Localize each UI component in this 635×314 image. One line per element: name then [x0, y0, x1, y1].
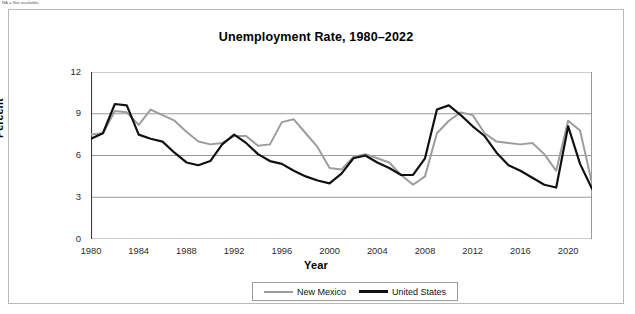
y-axis-tick-label-6: 6 — [55, 149, 81, 160]
x-axis-tick-label-1984: 1984 — [119, 246, 159, 256]
legend-item-united-states[interactable]: United States — [359, 287, 446, 297]
x-axis-tick-label-2012: 2012 — [453, 246, 493, 256]
y-axis-title: Percent — [0, 98, 5, 138]
plot-area: 0369121980198419881992199620002004200820… — [91, 72, 592, 239]
x-axis-tick-label-2020: 2020 — [548, 246, 588, 256]
legend-swatch-icon — [359, 290, 388, 293]
x-axis-tick-label-1996: 1996 — [262, 246, 302, 256]
x-axis-tick-label-1992: 1992 — [214, 246, 254, 256]
y-axis-tick-label-9: 9 — [55, 107, 81, 118]
legend-item-new-mexico[interactable]: New Mexico — [264, 287, 346, 297]
footnote-na: NA = Not available. — [2, 0, 40, 5]
chart-title: Unemployment Rate, 1980–2022 — [9, 30, 623, 44]
x-axis-tick-label-2016: 2016 — [500, 246, 540, 256]
x-axis-tick-label-2000: 2000 — [310, 246, 350, 256]
chart-frame: Unemployment Rate, 1980–2022 Percent 036… — [8, 9, 624, 304]
legend-label: New Mexico — [297, 287, 346, 297]
legend-swatch-icon — [264, 291, 293, 293]
x-axis-title: Year — [9, 259, 623, 271]
y-axis-tick-label-12: 12 — [55, 66, 81, 77]
line-chart-svg — [91, 72, 592, 239]
x-axis-tick-label-2004: 2004 — [357, 246, 397, 256]
y-axis-tick-label-0: 0 — [55, 233, 81, 244]
legend-label: United States — [392, 287, 446, 297]
y-axis-tick-label-3: 3 — [55, 191, 81, 202]
chart-legend: New MexicoUnited States — [252, 282, 458, 301]
x-axis-tick-label-2008: 2008 — [405, 246, 445, 256]
x-axis-tick-label-1980: 1980 — [71, 246, 111, 256]
x-axis-tick-label-1988: 1988 — [166, 246, 206, 256]
